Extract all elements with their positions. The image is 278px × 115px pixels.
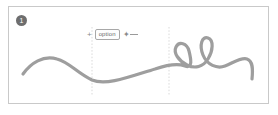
freehand-curve-stroke[interactable] — [23, 38, 252, 82]
sketch-canvas-panel[interactable]: 1 + option ✦ — [8, 6, 269, 104]
crosshair-icon: + — [87, 31, 92, 39]
modifier-key-hint: + option ✦ — [87, 29, 138, 40]
drag-arrow-glyph: ✦ — [123, 31, 130, 39]
drag-arrow-line — [130, 34, 138, 35]
option-key-chip[interactable]: option — [95, 29, 120, 40]
sketch-drawing-layer[interactable] — [9, 7, 268, 103]
drag-arrow-icon: ✦ — [123, 31, 138, 39]
